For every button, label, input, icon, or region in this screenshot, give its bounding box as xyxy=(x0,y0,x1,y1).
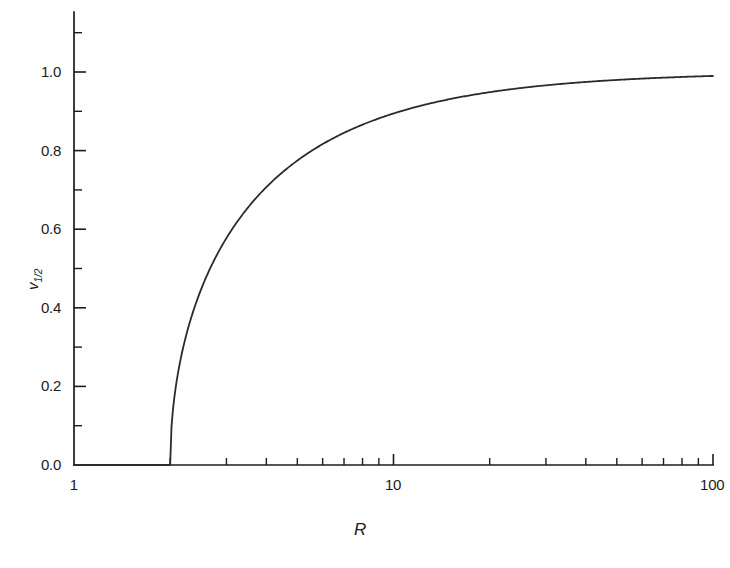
y-tick-label: 1.0 xyxy=(41,63,61,80)
y-tick-label: 0.8 xyxy=(41,142,61,159)
plot-canvas xyxy=(0,0,730,568)
figure-container: 110100 0.00.20.40.60.81.0 R v1/2 xyxy=(0,0,730,568)
y-tick-marks xyxy=(74,33,86,426)
x-tick-label: 1 xyxy=(70,476,78,493)
y-tick-label: 0.2 xyxy=(41,377,61,394)
x-tick-marks xyxy=(170,454,713,465)
y-axis-title: v1/2 xyxy=(24,269,44,290)
y-tick-label: 0.4 xyxy=(41,299,61,316)
data-curve xyxy=(74,76,713,465)
x-tick-label: 100 xyxy=(700,476,724,493)
y-tick-label: 0.0 xyxy=(41,456,61,473)
y-axis-title-base: v xyxy=(24,283,41,291)
y-axis-title-subscript: 1/2 xyxy=(33,269,44,283)
x-tick-label: 10 xyxy=(385,476,401,493)
x-axis-title: R xyxy=(354,520,366,540)
y-tick-label: 0.6 xyxy=(41,220,61,237)
